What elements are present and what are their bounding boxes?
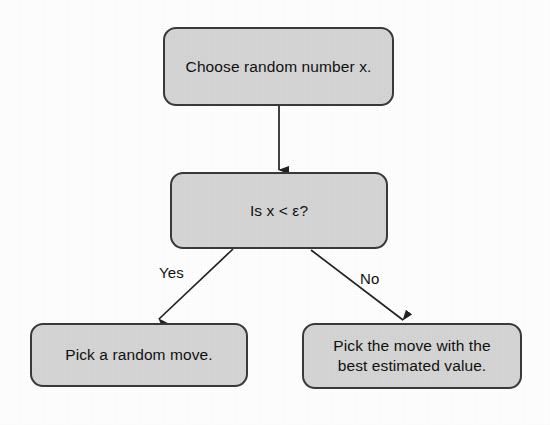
node-choose-random-number-label: Choose random number x. — [176, 57, 382, 77]
edge-label-yes: Yes — [159, 264, 184, 281]
node-pick-best-estimated-move: Pick the move with the best estimated va… — [302, 323, 522, 389]
node-pick-random-move: Pick a random move. — [30, 323, 248, 387]
edge-label-no: No — [360, 270, 380, 287]
node-pick-random-move-label: Pick a random move. — [55, 345, 223, 365]
edge-condition-to-best-move — [311, 250, 403, 320]
node-condition-label: Is x < ε? — [240, 201, 318, 221]
flowchart-canvas: Choose random number x. Is x < ε? Pick a… — [0, 0, 550, 425]
edge-condition-to-random-move — [159, 249, 233, 319]
node-pick-best-estimated-move-label: Pick the move with the best estimated va… — [323, 336, 500, 376]
node-choose-random-number: Choose random number x. — [163, 27, 394, 106]
node-condition-x-less-than-epsilon: Is x < ε? — [170, 172, 388, 249]
